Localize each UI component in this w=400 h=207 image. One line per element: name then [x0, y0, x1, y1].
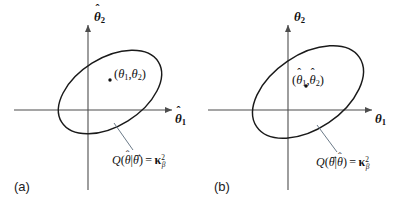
x-axis-arrowhead — [165, 107, 172, 113]
formula-leader-line — [317, 125, 337, 152]
y-axis-arrowhead — [285, 25, 291, 32]
y-axis-arrowhead — [85, 25, 91, 32]
y-axis-label: θ2 — [294, 10, 305, 25]
panel-tag-b: (b) — [214, 180, 230, 193]
x-axis-label: θ1 — [375, 112, 386, 127]
confidence-region-formula: Q(ˆθ|→θ) = κ2β — [112, 154, 165, 168]
panel-a: ˆθ2 ˆθ1 (θ1,θ2) Q(ˆθ|→θ) = κ2β (a) — [0, 0, 200, 207]
formula-leader-line — [114, 123, 133, 150]
confidence-ellipse — [236, 27, 380, 158]
parameter-point-label: (θ1,θ2) — [114, 68, 146, 83]
confidence-ellipse — [44, 33, 177, 151]
y-axis-label: ˆθ2 — [94, 10, 105, 25]
panel-b: θ2 θ1 (ˆθ1,ˆθ2) Q(→θ|ˆθ) = κ2β (b) — [200, 0, 400, 207]
panel-a-graphic — [0, 0, 200, 207]
x-axis-label: ˆθ1 — [175, 112, 186, 127]
confidence-region-formula: Q(→θ|ˆθ) = κ2β — [316, 156, 369, 170]
figure-canvas: ˆθ2 ˆθ1 (θ1,θ2) Q(ˆθ|→θ) = κ2β (a) θ2 — [0, 0, 400, 207]
parameter-point-marker — [108, 78, 111, 81]
estimate-point-label: (ˆθ1,ˆθ2) — [292, 74, 324, 89]
panel-b-graphic — [200, 0, 400, 207]
panel-tag-a: (a) — [14, 180, 30, 193]
x-axis-arrowhead — [365, 107, 372, 113]
